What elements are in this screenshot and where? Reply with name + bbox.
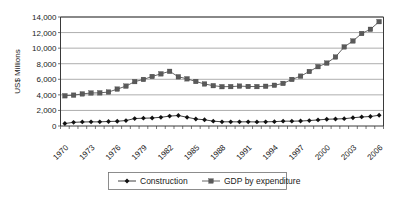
data-series — [62, 19, 381, 126]
data-point-marker — [132, 116, 137, 121]
data-point-marker — [289, 119, 294, 124]
data-point-marker — [89, 91, 94, 96]
y-axis-title-label: US$ Millions — [13, 49, 22, 93]
x-axis-tick-label: 1985 — [182, 143, 201, 162]
legend-swatch-marker — [209, 179, 214, 184]
x-axis-tick-labels: 1970197319761979198219851988199119941997… — [51, 143, 385, 162]
data-point-marker — [351, 115, 356, 120]
y-axis-tick-label: 6,000 — [36, 75, 57, 84]
x-axis-tick-label: 1997 — [287, 143, 306, 162]
data-point-marker — [132, 79, 137, 84]
data-point-marker — [324, 61, 329, 66]
data-point-marker — [237, 119, 242, 124]
data-point-marker — [167, 69, 172, 74]
x-axis-tick-label: 1991 — [235, 143, 254, 162]
legend-label-gdp: GDP by expenditure — [224, 176, 301, 186]
y-axis-tick-label: 0 — [52, 122, 57, 131]
data-point-marker — [368, 114, 373, 119]
data-point-marker — [62, 121, 67, 126]
data-point-marker — [124, 84, 129, 89]
y-axis-tick-label: 2,000 — [36, 106, 57, 115]
chart-canvas: 02,0004,0006,0008,00010,00012,00014,000 … — [0, 0, 394, 201]
data-point-marker — [324, 117, 329, 122]
data-point-marker — [63, 93, 68, 98]
legend-label-construction: Construction — [140, 176, 188, 186]
data-point-marker — [359, 115, 364, 120]
data-point-marker — [307, 69, 312, 74]
data-point-marker — [281, 119, 286, 124]
data-point-marker — [89, 119, 94, 124]
data-point-marker — [124, 118, 129, 123]
data-point-marker — [141, 77, 146, 82]
data-point-marker — [115, 119, 120, 124]
chart-container: 02,0004,0006,0008,00010,00012,00014,000 … — [0, 0, 394, 201]
data-point-marker — [80, 120, 85, 125]
data-point-marker — [141, 116, 146, 121]
data-point-marker — [342, 45, 347, 50]
data-point-marker — [255, 84, 260, 89]
data-point-marker — [211, 83, 216, 88]
data-point-marker — [228, 119, 233, 124]
data-point-marker — [290, 77, 295, 82]
data-point-marker — [298, 119, 303, 124]
data-point-marker — [115, 87, 120, 92]
data-point-marker — [71, 120, 76, 125]
data-point-marker — [368, 27, 373, 32]
data-point-marker — [211, 119, 216, 124]
axes — [61, 17, 384, 126]
data-point-marker — [316, 118, 321, 123]
data-point-marker — [333, 117, 338, 122]
x-axis-tick-label: 2003 — [339, 143, 358, 162]
data-point-marker — [185, 77, 190, 82]
x-axis-tick-label: 1979 — [130, 143, 149, 162]
data-point-marker — [106, 90, 111, 95]
x-axis-tick-label: 1970 — [51, 143, 70, 162]
x-axis-tick-label: 2000 — [313, 143, 332, 162]
data-point-marker — [307, 118, 312, 123]
data-point-marker — [158, 115, 163, 120]
data-point-marker — [220, 84, 225, 89]
y-axis-tick-labels: 02,0004,0006,0008,00010,00012,00014,000 — [32, 13, 60, 131]
data-point-marker — [220, 119, 225, 124]
data-point-marker — [150, 74, 155, 79]
y-axis-title: US$ Millions — [13, 49, 22, 93]
data-point-marker — [228, 84, 233, 89]
x-axis-tick-label: 1994 — [261, 143, 280, 162]
data-point-marker — [194, 79, 199, 84]
data-point-marker — [176, 74, 181, 79]
x-axis-tick-label: 1982 — [156, 143, 175, 162]
data-point-marker — [246, 119, 251, 124]
data-point-marker — [106, 119, 111, 124]
data-point-marker — [202, 117, 207, 122]
data-point-marker — [167, 114, 172, 119]
data-point-marker — [80, 92, 85, 97]
data-point-marker — [97, 119, 102, 124]
data-point-marker — [351, 39, 356, 44]
data-point-marker — [202, 82, 207, 87]
data-point-marker — [150, 116, 155, 121]
y-axis-tick-label: 10,000 — [32, 44, 57, 53]
data-point-marker — [281, 81, 286, 86]
x-axis-tick-label: 2006 — [366, 143, 385, 162]
data-point-marker — [71, 93, 76, 98]
data-point-marker — [176, 113, 181, 118]
data-point-marker — [255, 120, 260, 125]
data-point-marker — [272, 119, 277, 124]
data-point-marker — [237, 84, 242, 89]
x-axis-tick-label: 1973 — [78, 143, 97, 162]
data-point-marker — [97, 91, 102, 96]
gridlines — [61, 17, 384, 110]
data-point-marker — [185, 115, 190, 120]
chart-legend: ConstructionGDP by expenditure — [109, 173, 301, 190]
data-point-marker — [263, 119, 268, 124]
x-axis-tick-label: 1988 — [208, 143, 227, 162]
y-axis-tick-label: 8,000 — [36, 60, 57, 69]
data-point-marker — [272, 83, 277, 88]
data-point-marker — [359, 31, 364, 36]
data-point-marker — [159, 72, 164, 77]
data-point-marker — [298, 74, 303, 79]
y-axis-tick-label: 4,000 — [36, 91, 57, 100]
data-point-marker — [193, 117, 198, 122]
data-point-marker — [333, 55, 338, 60]
data-point-marker — [246, 84, 251, 89]
